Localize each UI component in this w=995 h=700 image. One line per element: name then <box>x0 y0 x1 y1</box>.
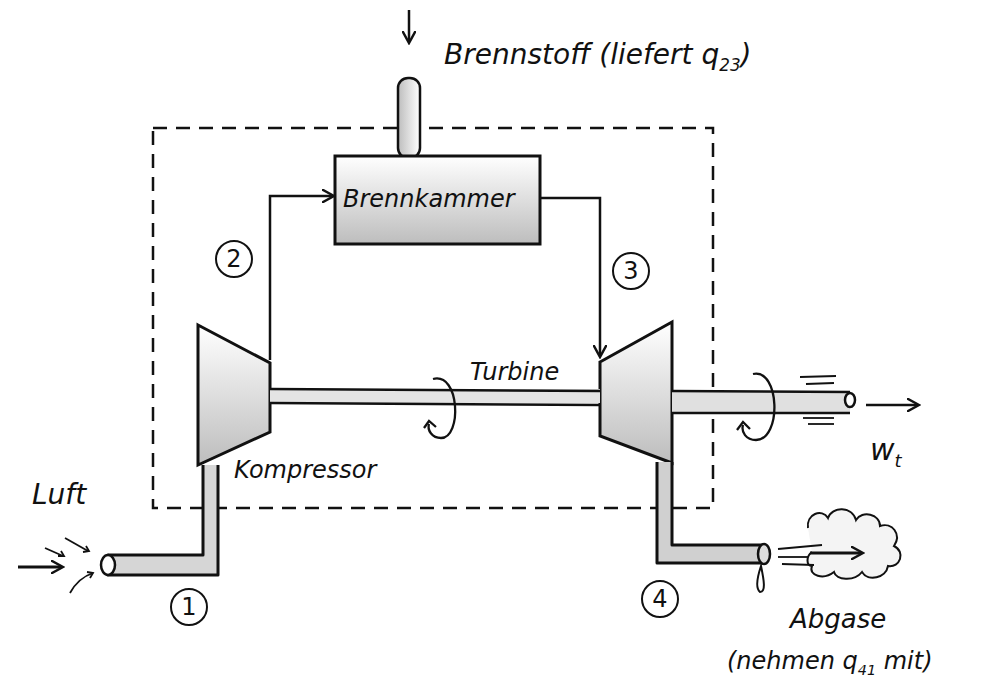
flow-line-3 <box>540 198 600 356</box>
compressor-shape <box>198 325 270 465</box>
compressor-label: Kompressor <box>234 456 376 484</box>
turbine-label: Turbine <box>470 358 559 386</box>
fuel-label: Brennstoff (liefert q23) <box>444 38 752 75</box>
exhaust-cloud-icon <box>778 509 901 579</box>
combustion-chamber-label: Brennkammer <box>343 185 515 213</box>
work-output-label: wt <box>870 432 902 471</box>
air-inlet-pipe <box>101 465 218 575</box>
air-inflow-arrows-icon <box>18 538 93 593</box>
state-1-marker: 1 <box>170 588 208 626</box>
flow-line-2 <box>270 196 333 360</box>
turbine-shape <box>600 322 672 463</box>
exhaust-heat-note: (nehmen q41 mit) <box>727 647 933 678</box>
fuel-inlet-pipe <box>398 78 420 160</box>
air-inlet-label: Luft <box>32 478 86 511</box>
schematic-drawing <box>0 0 995 700</box>
drop-icon <box>757 566 764 592</box>
exhaust-label: Abgase <box>790 604 886 634</box>
fuel-heat-note: (liefert q23) <box>599 38 751 71</box>
shaft <box>270 389 600 405</box>
state-4-marker: 4 <box>641 580 679 618</box>
rotation-arrow-icon <box>424 378 455 438</box>
state-2-marker: 2 <box>215 240 253 278</box>
gas-turbine-diagram: Brennstoff (liefert q23) Brennkammer Tur… <box>0 0 995 700</box>
state-3-marker: 3 <box>612 252 650 290</box>
output-shaft <box>672 376 855 424</box>
